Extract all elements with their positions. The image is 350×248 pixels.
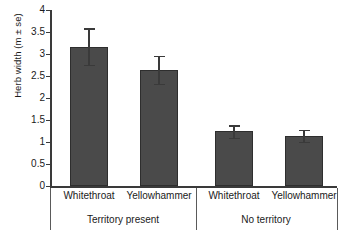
bar	[285, 136, 323, 186]
y-axis-title: Herb width (m ± se)	[12, 0, 23, 131]
group-label: Territory present	[53, 215, 193, 225]
tick-mark	[46, 120, 51, 121]
tick-mark	[46, 10, 51, 11]
bar	[215, 131, 253, 186]
error-cap-lower	[229, 138, 240, 139]
tick-label: 2	[39, 93, 45, 103]
tick-label: 1	[39, 137, 45, 147]
tick-mark	[46, 54, 51, 55]
tick-label: 0	[39, 181, 45, 191]
tick-label: 0.5	[31, 159, 45, 169]
error-bar	[303, 130, 304, 142]
tick-mark	[46, 164, 51, 165]
tick-mark	[46, 32, 51, 33]
error-cap-lower	[154, 84, 165, 85]
tick-mark	[46, 98, 51, 99]
group-label: No territory	[196, 215, 336, 225]
tick-label: 3	[39, 49, 45, 59]
bar	[140, 70, 178, 186]
group-separator	[50, 188, 51, 230]
error-bar	[233, 125, 234, 137]
error-cap-lower	[84, 65, 95, 66]
error-bar	[88, 28, 89, 64]
category-label: Yellowhammer	[259, 191, 349, 201]
tick-mark	[46, 142, 51, 143]
tick-label: 1.5	[31, 115, 45, 125]
error-cap-upper	[84, 28, 95, 29]
group-separator	[337, 188, 338, 230]
bar	[70, 47, 108, 186]
error-cap-upper	[229, 125, 240, 126]
error-bar	[158, 56, 159, 84]
error-cap-upper	[299, 130, 310, 131]
tick-mark	[46, 76, 51, 77]
x-axis-line	[50, 186, 337, 188]
bar-chart-figure: Herb width (m ± se) 00.511.522.533.54 Wh…	[0, 0, 350, 248]
error-cap-lower	[299, 142, 310, 143]
tick-label: 3.5	[31, 27, 45, 37]
tick-label: 2.5	[31, 71, 45, 81]
tick-label: 4	[39, 5, 45, 15]
error-cap-upper	[154, 56, 165, 57]
plot-area: 00.511.522.533.54	[50, 10, 337, 186]
tick-mark	[46, 186, 51, 187]
